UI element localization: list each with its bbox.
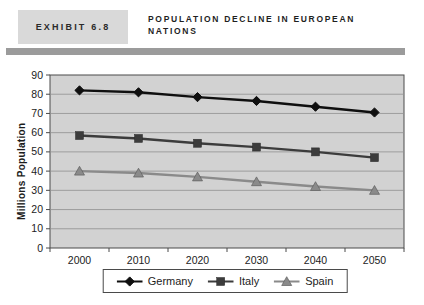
x-tick-label: 2010 [127, 254, 151, 266]
y-tick-label: 50 [31, 145, 43, 157]
x-tick-label: 2020 [186, 254, 210, 266]
italy-legend-glyph [217, 277, 225, 285]
chart-title: POPULATION DECLINE IN EUROPEAN NATIONS [148, 13, 408, 37]
spain-legend-marker-icon [274, 276, 300, 287]
y-tick-label: 40 [31, 165, 43, 177]
x-tick-label: 2050 [363, 254, 387, 266]
italy-marker [312, 148, 320, 156]
italy-legend-marker-icon [208, 276, 234, 287]
plot-area [50, 75, 404, 248]
chart-title-line1: POPULATION DECLINE IN EUROPEAN [148, 14, 355, 24]
page: EXHIBIT 6.8 POPULATION DECLINE IN EUROPE… [0, 0, 424, 305]
y-tick-label: 80 [31, 88, 43, 100]
legend-item-spain: Spain [274, 275, 333, 287]
y-tick-label: 70 [31, 107, 43, 119]
germany-legend-glyph [125, 276, 134, 285]
legend-label-spain: Spain [305, 275, 333, 287]
y-tick-label: 20 [31, 203, 43, 215]
chart-canvas: 0102030405060708090200020102020203020402… [0, 58, 424, 270]
italy-marker [76, 132, 84, 140]
legend-item-germany: Germany [117, 275, 193, 287]
y-tick-label: 0 [37, 242, 43, 254]
x-tick-label: 2000 [68, 254, 92, 266]
chart-legend: GermanyItalySpain [103, 269, 348, 293]
y-tick-label: 90 [31, 69, 43, 81]
italy-marker [371, 154, 379, 162]
italy-marker [253, 143, 261, 151]
chart-title-line2: NATIONS [148, 26, 198, 36]
italy-marker [194, 139, 202, 147]
exhibit-box: EXHIBIT 6.8 [18, 10, 128, 44]
y-tick-label: 60 [31, 126, 43, 138]
legend-item-italy: Italy [208, 275, 259, 287]
x-tick-label: 2040 [304, 254, 328, 266]
population-chart: 0102030405060708090200020102020203020402… [0, 58, 424, 270]
legend-label-italy: Italy [239, 275, 259, 287]
y-tick-label: 10 [31, 222, 43, 234]
x-tick-label: 2030 [245, 254, 269, 266]
germany-legend-marker-icon [117, 276, 143, 287]
exhibit-label: EXHIBIT 6.8 [36, 22, 111, 32]
divider-bar [6, 48, 405, 55]
italy-marker [135, 134, 143, 142]
legend-label-germany: Germany [148, 275, 193, 287]
y-tick-label: 30 [31, 184, 43, 196]
